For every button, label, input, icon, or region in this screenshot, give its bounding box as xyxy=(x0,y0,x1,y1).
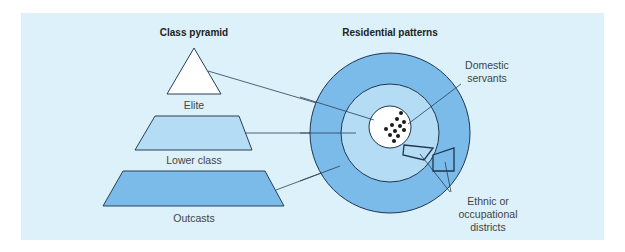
lower-class-trapezoid xyxy=(135,116,252,150)
servants-label-line1: Domestic xyxy=(465,59,509,71)
elite-triangle xyxy=(167,48,221,94)
outcasts-label: Outcasts xyxy=(173,212,214,224)
servants-label-line2: servants xyxy=(467,72,507,84)
center-circle xyxy=(369,106,411,148)
districts-label-line3: districts xyxy=(470,221,506,233)
districts-label-line2: occupational xyxy=(459,208,518,220)
diagram-canvas: Class pyramid Residential patterns Elite… xyxy=(0,0,625,252)
districts-label-line1: Ethnic or xyxy=(467,195,509,207)
class-pyramid-title: Class pyramid xyxy=(160,27,228,38)
outcasts-trapezoid xyxy=(103,171,284,206)
residential-patterns-title: Residential patterns xyxy=(342,27,438,38)
lower-class-label: Lower class xyxy=(166,154,221,166)
elite-label: Elite xyxy=(184,99,205,111)
